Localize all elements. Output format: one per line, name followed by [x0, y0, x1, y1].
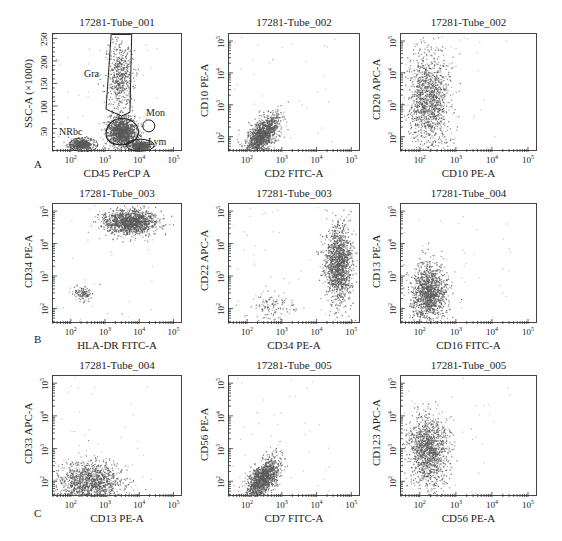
y-axis-ticks [52, 33, 57, 151]
plot-area [52, 203, 182, 323]
x-tick-label: 102 [241, 326, 253, 337]
y-tick-label: 105 [215, 206, 226, 218]
scatter-dots [53, 204, 183, 324]
y-tick-label: 100 [39, 100, 49, 114]
gate-label-nrbc: NRbc [59, 126, 82, 137]
y-tick-label: 104 [215, 411, 226, 423]
x-tick-label: 105 [167, 499, 179, 510]
x-axis-ticks [52, 492, 182, 497]
y-tick-label: 50 [39, 127, 49, 136]
x-tick-label: 104 [133, 499, 145, 510]
y-tick-label: 102 [215, 132, 226, 144]
x-tick-label: 105 [522, 499, 534, 510]
y-tick-label: 102 [215, 303, 226, 315]
x-tick-label: 102 [241, 499, 253, 510]
x-axis-ticks [228, 147, 360, 152]
y-tick-label: 102 [39, 476, 50, 488]
x-tick-label: 102 [414, 499, 426, 510]
y-axis-ticks [228, 33, 233, 151]
y-axis-label: CD123 APC-A [370, 399, 382, 466]
scatter-dots [229, 34, 361, 152]
y-tick-label: 103 [39, 444, 50, 456]
y-axis-ticks [228, 203, 233, 323]
x-tick-label: 105 [167, 326, 179, 337]
y-axis-label: CD13 PE-A [370, 235, 382, 288]
y-tick-label: 150 [39, 78, 49, 92]
x-axis-label: HLA-DR FITC-A [67, 339, 167, 351]
y-tick-label: 104 [215, 239, 226, 251]
scatter-dots [53, 376, 183, 497]
panel-title: 17281-Tube_005 [424, 359, 514, 371]
y-tick-label: 250 [39, 33, 49, 47]
x-tick-label: 103 [99, 499, 111, 510]
x-tick-label: 102 [65, 499, 77, 510]
panel-title: 17281-Tube_005 [249, 359, 339, 371]
y-tick-label: 105 [387, 378, 398, 390]
y-tick-label: 102 [215, 476, 226, 488]
x-tick-label: 103 [276, 154, 288, 165]
y-tick-label: 104 [387, 411, 398, 423]
x-axis-ticks [228, 319, 360, 324]
x-tick-label: 105 [167, 154, 179, 165]
panel-title: 17281-Tube_004 [72, 359, 162, 371]
scatter-dots [401, 34, 538, 152]
x-tick-label: 103 [450, 154, 462, 165]
y-tick-label: 105 [39, 378, 50, 390]
y-axis-ticks [52, 375, 57, 496]
plot-area [400, 33, 537, 151]
x-tick-label: 102 [241, 154, 253, 165]
x-axis-ticks [228, 492, 360, 497]
y-axis-label: CD56 PE-A [198, 407, 210, 460]
y-tick-label: 104 [387, 239, 398, 251]
x-tick-label: 104 [311, 499, 323, 510]
y-tick-label: 104 [39, 411, 50, 423]
y-axis-label: CD34 PE-A [22, 235, 34, 288]
x-tick-label: 105 [345, 499, 357, 510]
y-axis-label: SSC-A (×1000) [22, 60, 34, 129]
y-tick-label: 105 [215, 36, 226, 48]
x-tick-label: 104 [486, 154, 498, 165]
y-axis-label: CD20 APC-A [370, 59, 382, 120]
x-tick-label: 104 [486, 499, 498, 510]
y-axis-label: CD33 APC-A [22, 402, 34, 463]
plot-area [52, 375, 182, 496]
y-tick-label: 102 [387, 476, 398, 488]
x-tick-label: 102 [414, 326, 426, 337]
y-axis-label: CD10 PE-A [198, 64, 210, 117]
y-tick-label: 103 [215, 271, 226, 283]
x-axis-label: CD13 PE-A [67, 512, 167, 524]
x-tick-label: 104 [133, 326, 145, 337]
x-axis-label: CD16 FITC-A [419, 339, 519, 351]
x-axis-ticks [400, 492, 537, 497]
x-axis-ticks [400, 319, 537, 324]
plot-area [228, 203, 360, 323]
x-tick-label: 103 [276, 326, 288, 337]
x-tick-label: 104 [311, 326, 323, 337]
x-axis-label: CD56 PE-A [419, 512, 519, 524]
gate-label-mon: Mon [146, 107, 165, 118]
panel-title: 17281-Tube_004 [424, 187, 514, 199]
x-axis-label: CD45 PerCP A [67, 167, 167, 179]
scatter-dots [229, 376, 361, 497]
y-tick-label: 200 [39, 55, 49, 69]
x-axis-label: CD10 PE-A [419, 167, 519, 179]
x-tick-label: 105 [522, 326, 534, 337]
x-axis-ticks [52, 147, 182, 152]
y-tick-label: 102 [387, 303, 398, 315]
panel-title: 17281-Tube_003 [72, 187, 162, 199]
x-tick-label: 103 [99, 326, 111, 337]
panel-title: 17281-Tube_002 [249, 16, 339, 28]
x-tick-label: 102 [65, 326, 77, 337]
y-tick-label: 103 [387, 271, 398, 283]
x-tick-label: 103 [450, 326, 462, 337]
y-tick-label: 102 [39, 303, 50, 315]
plot-area [400, 203, 537, 323]
y-tick-label: 105 [387, 206, 398, 218]
panel-title: 17281-Tube_002 [424, 16, 514, 28]
x-axis-label: CD2 FITC-A [244, 167, 344, 179]
x-axis-ticks [52, 319, 182, 324]
x-tick-label: 103 [276, 499, 288, 510]
plot-area [228, 375, 360, 496]
x-tick-label: 103 [450, 499, 462, 510]
x-axis-ticks [400, 147, 537, 152]
